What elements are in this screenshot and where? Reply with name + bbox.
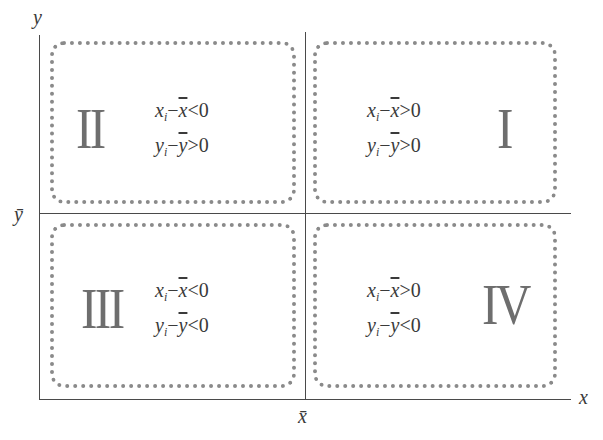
quadrant-i-box	[313, 41, 557, 204]
quadrant-iv-x-condition: xi−x>0	[367, 276, 421, 311]
x-mean-label: x̄	[298, 405, 307, 428]
y-axis-label: y	[33, 6, 42, 29]
quadrant-i-numeral: I	[497, 100, 511, 158]
quadrant-i-conditions: xi−x>0 yi−y>0	[367, 96, 421, 166]
quadrant-ii-y-condition: yi−y>0	[155, 131, 209, 166]
y-mean-line	[39, 213, 571, 214]
quadrant-ii-conditions: xi−x<0 yi−y>0	[155, 96, 209, 166]
quadrant-ii-x-condition: xi−x<0	[155, 96, 209, 131]
y-axis	[39, 35, 40, 400]
quadrant-iii-numeral: III	[81, 280, 123, 338]
x-axis-label: x	[579, 386, 588, 409]
x-mean-line	[305, 32, 306, 400]
quadrant-iv-y-condition: yi−y<0	[367, 311, 421, 346]
quadrant-ii-numeral: II	[76, 100, 104, 158]
quadrant-iv-conditions: xi−x>0 yi−y<0	[367, 276, 421, 346]
y-mean-label: ȳ	[14, 203, 23, 226]
quadrant-i-x-condition: xi−x>0	[367, 96, 421, 131]
quadrant-iii-y-condition: yi−y<0	[155, 311, 209, 346]
quadrant-iv-numeral: IV	[482, 276, 529, 334]
quadrant-i-y-condition: yi−y>0	[367, 131, 421, 166]
quadrant-iii-x-condition: xi−x<0	[155, 276, 209, 311]
quadrant-iii-conditions: xi−x<0 yi−y<0	[155, 276, 209, 346]
